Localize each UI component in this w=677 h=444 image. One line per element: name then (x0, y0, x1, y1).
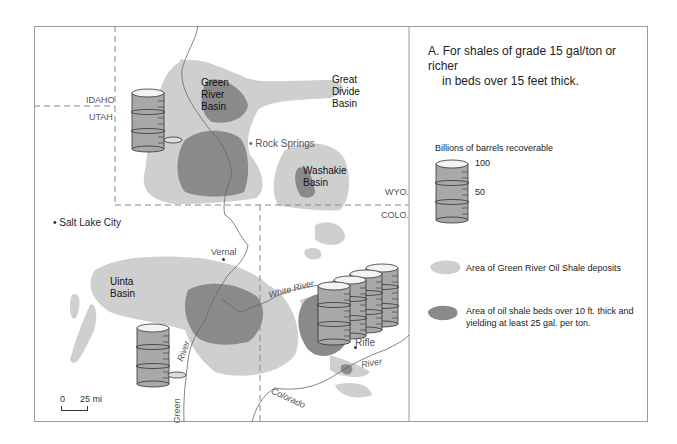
legend-title: A. For shales of grade 15 gal/ton or ric… (428, 44, 648, 89)
state-label-wyoming: WYO. (385, 186, 409, 198)
state-label-idaho: IDAHO (86, 94, 115, 106)
barrel-scale-50: 50 (475, 186, 485, 198)
state-label-utah: UTAH (89, 111, 113, 123)
scale-distance: 25 mi (80, 393, 102, 405)
dark-area-label: Area of oil shale beds over 10 ft. thick… (466, 305, 634, 329)
rifle-dot (354, 346, 357, 349)
basin-label-washakie: Washakie Basin (303, 165, 347, 189)
barrel-scale-label: Billions of barrels recoverable (435, 142, 553, 154)
basin-label-great-divide: Great Divide Basin (332, 74, 360, 110)
city-vernal: Vernal (211, 246, 237, 258)
light-area-label: Area of Green River Oil Shale deposits (466, 262, 621, 274)
basin-label-green-river: Green River Basin (201, 77, 229, 113)
basin-label-uinta: Uinta Basin (110, 276, 135, 300)
scale-zero: 0 (60, 393, 65, 405)
city-rock-springs: • Rock Springs (249, 138, 315, 150)
river-label-green: Green (171, 398, 183, 423)
state-label-colorado: COLO. (381, 209, 409, 221)
city-salt-lake-city: • Salt Lake City (53, 217, 121, 229)
city-rifle: Rifle (355, 337, 375, 349)
vernal-dot (222, 258, 225, 261)
barrel-scale-100: 100 (475, 157, 490, 169)
scale-bar (61, 406, 88, 411)
